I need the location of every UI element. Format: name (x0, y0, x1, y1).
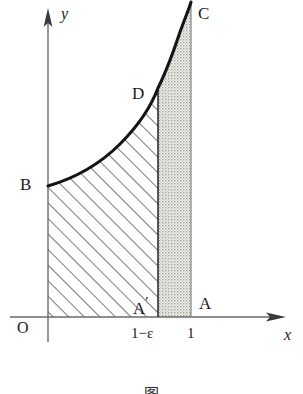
point-label-B: B (20, 176, 31, 193)
y-axis-label: y (61, 6, 68, 22)
figure-root: y x O C D B A′ A 1−ε 1 图 (0, 0, 303, 394)
hatched-region (40, 0, 170, 330)
point-label-C: C (198, 5, 209, 22)
figure-caption: 图 (0, 382, 303, 394)
prime-mark-icon: ′ (145, 294, 148, 310)
point-label-A: A (199, 295, 211, 312)
x-tick-label-1: 1 (187, 326, 195, 341)
point-label-A-prime: A′ (133, 295, 149, 317)
x-tick-label-1-minus-eps: 1−ε (131, 326, 153, 341)
point-label-D: D (132, 85, 144, 102)
origin-label: O (17, 320, 29, 336)
point-label-A-prime-letter: A (133, 299, 145, 318)
x-axis-label: x (284, 327, 291, 343)
